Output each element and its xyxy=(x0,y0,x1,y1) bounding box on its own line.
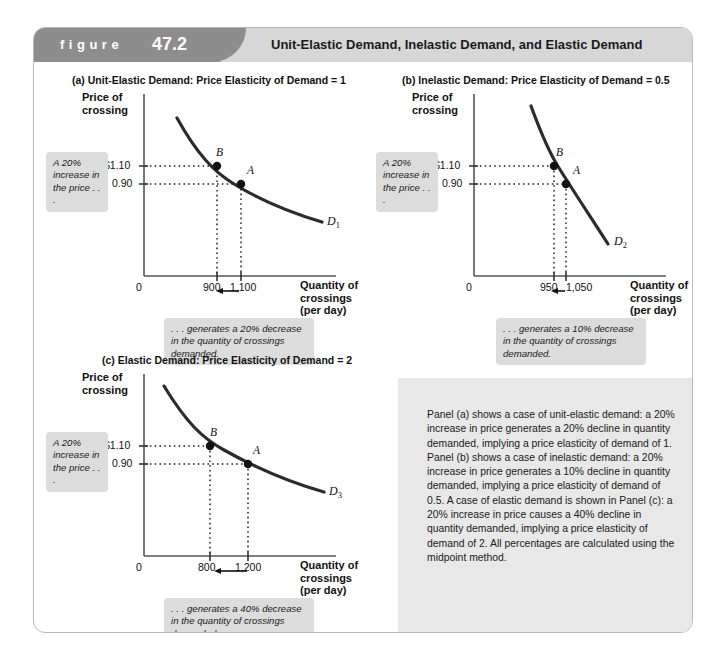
panel-a-point-a xyxy=(237,180,245,188)
panel-a-y-axis-label: Price of crossing xyxy=(82,91,128,116)
panel-c-demand-curve xyxy=(164,386,324,492)
panel-c-q-b-label: 800 xyxy=(198,561,216,573)
panel-c-y-axis-label: Price of crossing xyxy=(82,371,128,396)
panel-b-curve-subscript: 2 xyxy=(623,240,627,250)
panel-a-q-b-label: 900 xyxy=(203,281,221,293)
panel-b-x-axis-label-line1: Quantity of xyxy=(630,279,688,291)
panel-a-price-callout: A 20% increase in the price . . . xyxy=(46,152,108,212)
panel-c-curve-subscript: 3 xyxy=(338,490,342,500)
figure-label: figure xyxy=(60,37,123,52)
panel-c-curve-label: D3 xyxy=(329,484,342,500)
panel-c-point-b xyxy=(206,442,214,450)
panel-a-curve-subscript: 1 xyxy=(336,220,340,230)
panel-b-point-b xyxy=(550,162,558,170)
panel-b-x-axis-label-line3: (per day) xyxy=(630,304,676,316)
explanation-text: Panel (a) shows a case of unit-elastic d… xyxy=(427,408,675,565)
explanation-panel: Panel (a) shows a case of unit-elastic d… xyxy=(398,378,693,633)
panel-a: (a) Unit-Elastic Demand: Price Elasticit… xyxy=(34,66,374,356)
panel-c-x-axis-label-line3: (per day) xyxy=(300,584,346,596)
panel-c-x-axis-label: Quantity of crossings (per day) xyxy=(300,559,358,597)
panel-b-y-axis-label-line2: crossing xyxy=(412,104,458,116)
panel-c-label-b: B xyxy=(210,426,217,438)
panel-c-x-axis-label-line2: crossings xyxy=(300,572,352,584)
panel-c-point-a xyxy=(244,460,252,468)
panel-b-curve-letter: D xyxy=(614,234,623,248)
panel-b-q-a-label: 1,050 xyxy=(566,281,592,293)
panel-c: (c) Elastic Demand: Price Elasticity of … xyxy=(34,346,374,633)
panel-b: (b) Inelastic Demand: Price Elasticity o… xyxy=(364,66,693,356)
panel-b-y-axis-label-line1: Price of xyxy=(412,91,452,103)
panel-c-label-a: A xyxy=(253,444,260,456)
panel-b-origin-label: 0 xyxy=(466,281,472,293)
panel-b-title: (b) Inelastic Demand: Price Elasticity o… xyxy=(402,74,670,86)
figure-title: Unit-Elastic Demand, Inelastic Demand, a… xyxy=(271,37,642,52)
panel-b-q-b-label: 950 xyxy=(540,281,558,293)
panel-a-curve-label: D1 xyxy=(327,214,340,230)
panel-a-x-axis-label: Quantity of crossings (per day) xyxy=(300,279,358,317)
panel-b-price-callout: A 20% increase in the price . . . xyxy=(376,152,438,212)
panel-b-x-axis-label-line2: crossings xyxy=(630,292,682,304)
panel-b-point-a xyxy=(562,180,570,188)
panel-b-price-low-label: 0.90 xyxy=(442,177,462,189)
panel-a-title: (a) Unit-Elastic Demand: Price Elasticit… xyxy=(72,74,346,86)
panel-c-origin-label: 0 xyxy=(136,561,142,573)
panel-a-label-a: A xyxy=(247,164,254,176)
panel-a-x-axis-label-line3: (per day) xyxy=(300,304,346,316)
panel-c-y-axis-label-line1: Price of xyxy=(82,371,122,383)
panel-c-curve-letter: D xyxy=(329,484,338,498)
panel-a-price-low-label: 0.90 xyxy=(112,177,132,189)
figure-number: 47.2 xyxy=(152,34,187,55)
panel-c-x-axis-label-line1: Quantity of xyxy=(300,559,358,571)
panel-a-label-b: B xyxy=(216,146,223,158)
panel-a-origin-label: 0 xyxy=(136,281,142,293)
figure-frame: figure 47.2 Unit-Elastic Demand, Inelast… xyxy=(33,27,693,633)
figure-banner: figure 47.2 Unit-Elastic Demand, Inelast… xyxy=(34,28,693,62)
panel-c-price-low-label: 0.90 xyxy=(112,457,132,469)
panel-a-x-axis-label-line2: crossings xyxy=(300,292,352,304)
panel-c-q-a-label: 1,200 xyxy=(235,561,261,573)
panel-b-x-axis-label: Quantity of crossings (per day) xyxy=(630,279,688,317)
panel-b-label-b: B xyxy=(556,146,563,158)
panel-c-title: (c) Elastic Demand: Price Elasticity of … xyxy=(102,354,352,366)
panel-b-y-axis-label: Price of crossing xyxy=(412,91,458,116)
panel-b-curve-label: D2 xyxy=(614,234,627,250)
panel-a-x-axis-label-line1: Quantity of xyxy=(300,279,358,291)
panel-a-y-axis-label-line1: Price of xyxy=(82,91,122,103)
panel-c-y-axis-label-line2: crossing xyxy=(82,384,128,396)
panel-c-quantity-callout: . . . generates a 40% decrease in the qu… xyxy=(164,598,314,633)
panel-b-demand-curve xyxy=(531,106,608,244)
panel-c-price-callout: A 20% increase in the price . . . xyxy=(46,432,108,492)
figure-root: figure 47.2 Unit-Elastic Demand, Inelast… xyxy=(0,0,727,663)
panel-b-label-a: A xyxy=(573,164,580,176)
panel-a-curve-letter: D xyxy=(327,214,336,228)
panel-a-y-axis-label-line2: crossing xyxy=(82,104,128,116)
panel-a-point-b xyxy=(213,162,221,170)
panel-a-q-a-label: 1,100 xyxy=(230,281,256,293)
panel-b-quantity-callout: . . . generates a 10% decrease in the qu… xyxy=(496,318,646,365)
